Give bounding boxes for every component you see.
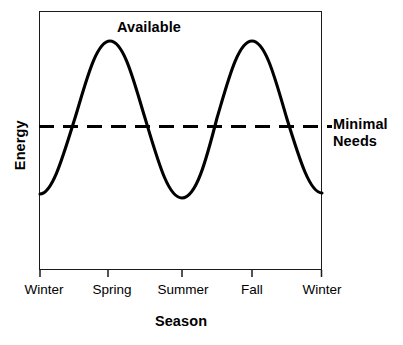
x-tick-label-summer: Summer (157, 283, 208, 297)
minimal-needs-label-line1: Minimal (333, 116, 388, 133)
x-axis-ticks (40, 270, 322, 277)
y-axis-title: Energy (13, 110, 28, 180)
x-tick-label-winter-end: Winter (302, 283, 341, 297)
minimal-needs-label: Minimal Needs (333, 116, 388, 150)
x-tick-label-fall: Fall (241, 283, 263, 297)
x-tick-label-spring: Spring (92, 283, 131, 297)
energy-season-chart: Available Energy Minimal Needs Winter Sp… (0, 0, 403, 345)
x-axis-title: Season (155, 314, 207, 329)
plot-area-frame (39, 11, 322, 270)
x-tick-label-winter-start: Winter (24, 283, 63, 297)
minimal-needs-label-line2: Needs (333, 133, 388, 150)
available-series-label: Available (117, 20, 181, 35)
